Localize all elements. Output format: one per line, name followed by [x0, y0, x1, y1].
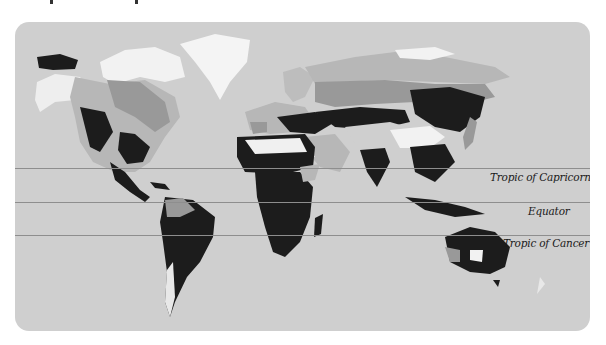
gobi-desert — [390, 126, 445, 148]
tropic-of-cancer-line — [15, 235, 590, 236]
madagascar — [314, 214, 323, 237]
tropic-of-capricorn-line — [15, 168, 590, 169]
indonesia — [405, 197, 485, 217]
cropped-text-fragment — [50, 0, 53, 4]
greenland — [180, 34, 250, 100]
southeast-asia — [410, 144, 455, 182]
caribbean — [150, 182, 170, 190]
equator-line — [15, 202, 590, 203]
alaska-dark — [37, 54, 78, 70]
africa-body — [255, 172, 313, 257]
world-map-panel: Tropic of Capricorn Equator Tropic of Ca… — [15, 22, 590, 331]
australia-desert — [470, 250, 483, 262]
tropic-of-capricorn-label: Tropic of Capricorn — [490, 171, 590, 183]
canadian-arctic — [100, 47, 185, 84]
iberia — [250, 122, 267, 134]
africa-horn — [300, 164, 320, 182]
tasmania — [493, 280, 500, 287]
tropic-of-cancer-label: Tropic of Cancer — [503, 237, 589, 249]
cropped-text-fragment — [135, 0, 138, 4]
new-zealand — [537, 277, 545, 294]
sahara-desert — [245, 138, 307, 154]
equator-label: Equator — [528, 205, 570, 217]
